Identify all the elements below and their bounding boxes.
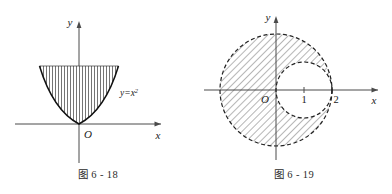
parabola-plot: y x O y=x2 (0, 0, 196, 168)
x-axis-arrowhead (372, 88, 379, 93)
circles-plot: y x O 1 2 (196, 0, 392, 168)
curve-equation-label: y=x2 (119, 87, 139, 99)
origin-label: O (84, 128, 92, 140)
figure-page: y x O y=x2 图 6 - 18 (0, 0, 392, 194)
x-axis-label: x (371, 94, 377, 106)
figure-caption-6-18: 图 6 - 18 (0, 166, 196, 181)
figure-caption-6-19: 图 6 - 19 (196, 166, 392, 181)
x-tick-label-1: 1 (301, 94, 306, 105)
x-axis-arrowhead (155, 122, 162, 127)
y-axis-arrowhead (77, 21, 82, 28)
x-tick-label-2: 2 (333, 94, 338, 105)
y-axis-label: y (67, 16, 73, 28)
y-axis-arrowhead (274, 16, 279, 23)
figure-circles: y x O 1 2 图 6 - 19 (196, 0, 392, 194)
y-axis-label: y (265, 11, 271, 23)
diagonal-hatch-region (216, 30, 341, 155)
figure-parabola: y x O y=x2 图 6 - 18 (0, 0, 196, 194)
x-axis-label: x (155, 129, 161, 141)
origin-label: O (261, 93, 269, 105)
